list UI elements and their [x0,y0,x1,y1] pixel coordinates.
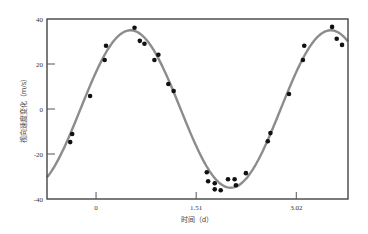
radial-velocity-chart: -40-200204001.513.02 时间（d） 视向速度变化（m/s） [0,0,368,234]
data-point [166,82,171,87]
data-point [212,181,217,186]
data-point [334,37,339,42]
data-point [265,139,270,144]
y-tick-label: -40 [34,196,44,204]
data-point [330,25,335,30]
data-point [287,92,292,97]
data-point [102,58,107,63]
data-point [138,39,143,44]
data-point [206,179,211,184]
x-tick-label: 3.02 [290,204,303,212]
data-point [104,43,109,48]
y-axis-label: 视向速度变化（m/s） [19,75,28,144]
data-point [142,41,147,46]
y-tick-label: 0 [40,106,44,114]
data-point [226,177,231,182]
data-point [70,132,75,137]
data-point [301,58,306,63]
data-point [268,131,273,136]
data-point [218,188,223,193]
data-point [204,170,209,175]
y-tick-label: -20 [34,151,44,159]
data-point [132,25,137,30]
data-point [212,187,217,192]
data-point [68,140,73,145]
data-point [232,177,237,182]
data-point [340,43,345,48]
y-tick-label: 40 [36,16,44,24]
data-point [152,58,157,63]
x-axis-label: 时间（d） [181,215,213,224]
x-tick-label: 1.51 [190,204,203,212]
data-point [171,89,176,94]
data-point [156,52,161,57]
y-tick-label: 20 [36,61,44,69]
data-point [88,94,93,99]
fit-curve [47,30,348,187]
data-point [244,171,249,176]
data-point [302,43,307,48]
data-point [234,183,239,188]
x-tick-label: 0 [94,204,98,212]
